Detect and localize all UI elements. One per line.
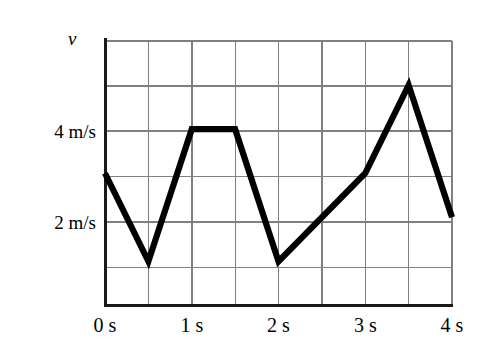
x-tick-label-0: 0 s bbox=[75, 315, 135, 335]
y-axis-symbol-label: v bbox=[68, 29, 76, 48]
y-tick-label-2: 2 m/s bbox=[18, 213, 96, 232]
x-tick-label-4: 4 s bbox=[422, 315, 482, 335]
x-tick-label-3: 3 s bbox=[335, 315, 395, 335]
plot-area bbox=[0, 0, 482, 356]
velocity-time-chart: v 4 m/s 2 m/s 0 s 1 s 2 s 3 s 4 s bbox=[0, 0, 482, 356]
x-tick-label-1: 1 s bbox=[162, 315, 222, 335]
y-tick-label-4: 4 m/s bbox=[18, 122, 96, 141]
x-tick-label-2: 2 s bbox=[249, 315, 309, 335]
